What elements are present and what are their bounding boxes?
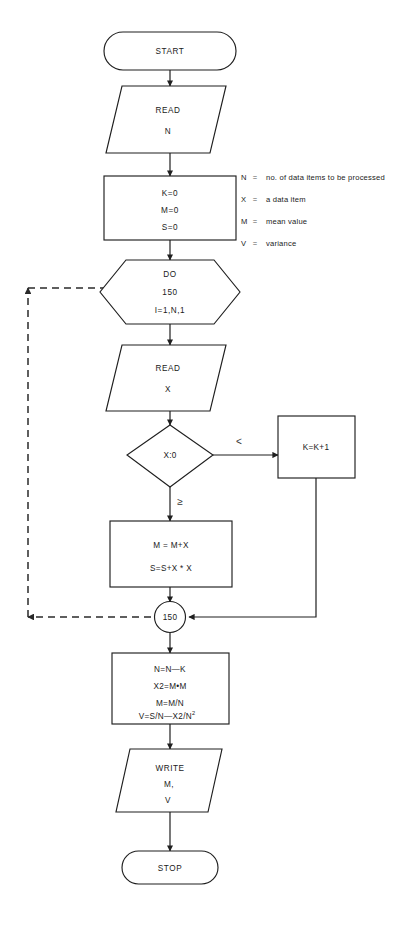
write-line1: WRITE bbox=[155, 764, 184, 773]
flowchart-svg: START READ N K=0 M=0 S=0 DO 150 I=1,N,1 … bbox=[0, 0, 417, 942]
stop-label: STOP bbox=[158, 864, 182, 873]
node-write[interactable]: WRITE M, V bbox=[116, 749, 222, 812]
legend: N = no. of data items to be processed X … bbox=[241, 173, 385, 248]
start-label: START bbox=[156, 47, 185, 56]
legend-row-n: N = no. of data items to be processed bbox=[241, 173, 385, 182]
init-line2: M=0 bbox=[161, 206, 179, 215]
read-n-line1: READ bbox=[156, 106, 181, 115]
legend-eq-m: = bbox=[253, 217, 258, 226]
legend-row-v: V = variance bbox=[241, 239, 296, 248]
legend-eq-x: = bbox=[253, 195, 258, 204]
flowchart-canvas: START READ N K=0 M=0 S=0 DO 150 I=1,N,1 … bbox=[0, 0, 417, 942]
node-count-k[interactable]: K=K+1 bbox=[278, 416, 355, 478]
legend-eq-n: = bbox=[253, 173, 258, 182]
do-loop-line2: 150 bbox=[162, 288, 177, 297]
read-x-parallelogram-shape bbox=[106, 345, 226, 411]
read-n-parallelogram-shape bbox=[106, 86, 226, 153]
read-x-line2: X bbox=[165, 385, 171, 394]
compute-line1: N=N—K bbox=[154, 665, 186, 674]
write-line2: M, bbox=[164, 780, 174, 789]
compute-line2: X2=M•M bbox=[153, 682, 186, 691]
init-line1: K=0 bbox=[162, 189, 178, 198]
legend-row-m: M = mean value bbox=[241, 217, 307, 226]
legend-eq-v: = bbox=[253, 239, 258, 248]
decision-label: X:0 bbox=[163, 451, 176, 460]
node-read-n[interactable]: READ N bbox=[106, 86, 226, 153]
node-start[interactable]: START bbox=[104, 32, 236, 70]
do-loop-line3: I=1,N,1 bbox=[155, 306, 185, 315]
read-n-line2: N bbox=[165, 127, 171, 136]
legend-key-n: N bbox=[241, 173, 247, 182]
compute-line4-base: V=S/N—X2/N bbox=[139, 712, 192, 721]
compute-line4-superscript: 2 bbox=[192, 710, 195, 716]
node-stop[interactable]: STOP bbox=[122, 851, 218, 884]
legend-key-x: X bbox=[241, 195, 246, 204]
legend-key-m: M bbox=[241, 217, 248, 226]
write-line3: V bbox=[165, 796, 171, 805]
accumulate-line1: M = M+X bbox=[153, 541, 189, 550]
legend-value-v: variance bbox=[266, 239, 296, 248]
read-x-line1: READ bbox=[156, 364, 181, 373]
branch-label-greater-equal: ≥ bbox=[177, 496, 183, 507]
legend-value-x: a data item bbox=[266, 195, 306, 204]
legend-row-x: X = a data item bbox=[241, 195, 306, 204]
node-read-x[interactable]: READ X bbox=[106, 345, 226, 411]
node-accumulate[interactable]: M = M+X S=S+X * X bbox=[110, 521, 232, 587]
legend-key-v: V bbox=[241, 239, 247, 248]
node-init[interactable]: K=0 M=0 S=0 bbox=[104, 176, 236, 240]
legend-value-m: mean value bbox=[266, 217, 307, 226]
node-compute[interactable]: N=N—K X2=M•M M=M/N V=S/N—X2/N2 bbox=[112, 653, 229, 724]
accumulate-line2: S=S+X * X bbox=[150, 564, 192, 573]
init-line3: S=0 bbox=[162, 223, 178, 232]
legend-value-n: no. of data items to be processed bbox=[266, 173, 385, 182]
compute-line4: V=S/N—X2/N2 bbox=[139, 710, 196, 721]
compute-line3: M=M/N bbox=[156, 699, 184, 708]
accumulate-process-shape bbox=[110, 521, 232, 587]
node-connector-150[interactable]: 150 bbox=[155, 602, 186, 633]
node-decision[interactable]: X:0 bbox=[127, 425, 213, 487]
count-k-label: K=K+1 bbox=[303, 443, 330, 452]
connector-150-label: 150 bbox=[163, 613, 178, 622]
branch-label-less-than: < bbox=[236, 436, 242, 447]
do-loop-line1: DO bbox=[163, 270, 176, 279]
node-do-loop[interactable]: DO 150 I=1,N,1 bbox=[100, 260, 240, 324]
